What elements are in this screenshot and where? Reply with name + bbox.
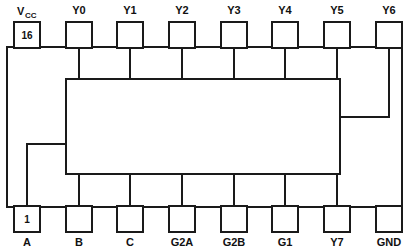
pinout-svg-canvas: 16 1 V CC Y0 Y1 Y2 Y3 Y4 Y5 Y6 A B C G2A… (0, 0, 410, 252)
pin-lead-c[interactable] (117, 206, 143, 232)
pin-label-y1: Y1 (123, 4, 136, 16)
bond-wire-a (27, 144, 66, 206)
pin-lead-y4[interactable] (272, 22, 298, 48)
pin-label-y2: Y2 (175, 4, 188, 16)
pin-lead-y0[interactable] (66, 22, 92, 48)
pin-label-g1: G1 (278, 236, 293, 248)
bond-wire-y6 (340, 47, 389, 117)
pin-label-a: A (23, 236, 31, 248)
pin-number-16: 16 (21, 30, 33, 41)
pin-lead-y5[interactable] (324, 22, 350, 48)
pin-label-g2a: G2A (171, 236, 194, 248)
pin-lead-y7[interactable] (324, 206, 350, 232)
pin-label-y5: Y5 (330, 4, 343, 16)
pin-label-y7: Y7 (330, 236, 343, 248)
pin-lead-y6[interactable] (376, 22, 402, 48)
pin-label-y0: Y0 (72, 4, 85, 16)
pin-lead-gnd[interactable] (376, 206, 402, 232)
pin-lead-y3[interactable] (221, 22, 247, 48)
pin-lead-g1[interactable] (272, 206, 298, 232)
pin-label-y6: Y6 (382, 4, 395, 16)
pin-label-y3: Y3 (227, 4, 240, 16)
pin-lead-g2a[interactable] (169, 206, 195, 232)
pin-number-1: 1 (24, 214, 30, 225)
pin-label-g2b: G2B (223, 236, 246, 248)
pin-label-b: B (75, 236, 83, 248)
pin-label-vcc-sub: CC (25, 11, 37, 20)
pin-lead-g2b[interactable] (221, 206, 247, 232)
pin-label-vcc: V CC (17, 5, 37, 20)
die-rectangle (66, 79, 340, 174)
pin-lead-y2[interactable] (169, 22, 195, 48)
pin-lead-b[interactable] (66, 206, 92, 232)
pin-label-c: C (126, 236, 134, 248)
pin-label-vcc-main: V (17, 5, 25, 17)
pin-label-gnd: GND (377, 236, 402, 248)
pin-label-y4: Y4 (278, 4, 292, 16)
ic-pinout-diagram: 16 1 V CC Y0 Y1 Y2 Y3 Y4 Y5 Y6 A B C G2A… (0, 0, 410, 252)
pin-lead-y1[interactable] (117, 22, 143, 48)
